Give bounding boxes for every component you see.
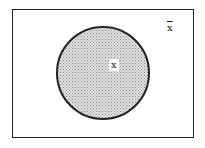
set-x-label: x <box>109 59 119 71</box>
complement-label: x <box>167 23 173 33</box>
venn-svg <box>0 0 205 148</box>
set-x-circle <box>57 27 149 119</box>
